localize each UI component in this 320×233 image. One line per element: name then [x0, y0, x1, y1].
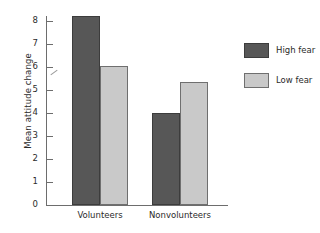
bar-nonvolunteers-high-fear [152, 113, 180, 205]
y-tick-label-2: 2 [8, 154, 38, 163]
y-tick-0 [46, 205, 53, 206]
legend-swatch-high-fear [244, 43, 269, 58]
y-tick-label-8: 8 [8, 16, 38, 25]
legend-label-low-fear: Low fear [276, 75, 312, 85]
y-tick-label-0: 0 [8, 200, 38, 209]
chart-legend: High fear Low fear [244, 42, 320, 102]
bar-volunteers-low-fear [100, 66, 128, 205]
y-tick-label-4: 4 [8, 108, 38, 117]
x-label-nonvolunteers: Nonvolunteers [135, 210, 225, 220]
bar-nonvolunteers-low-fear [180, 82, 208, 205]
y-tick-label-5: 5 [8, 85, 38, 94]
x-axis-line [46, 205, 228, 206]
y-tick-label-3: 3 [8, 131, 38, 140]
bar-volunteers-high-fear [72, 16, 100, 205]
y-tick-label-6: 6 [8, 62, 38, 71]
y-tick-label-7: 7 [8, 39, 38, 48]
x-label-volunteers: Volunteers [55, 210, 145, 220]
legend-item-low-fear: Low fear [244, 72, 320, 88]
legend-swatch-low-fear [244, 73, 269, 88]
legend-label-high-fear: High fear [276, 45, 315, 55]
bars-area [46, 17, 228, 205]
legend-item-high-fear: High fear [244, 42, 320, 58]
bar-chart: Mean attitude change 012345678 Volunteer… [0, 0, 320, 233]
y-tick-label-1: 1 [8, 177, 38, 186]
